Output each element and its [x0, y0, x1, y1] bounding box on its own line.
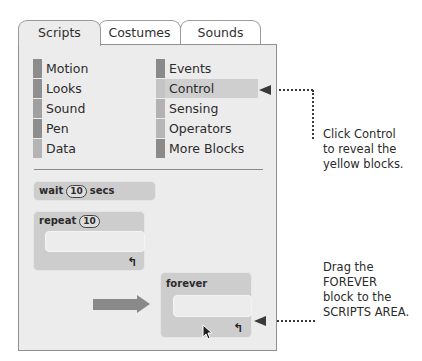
forever-mouth — [173, 295, 252, 317]
category-color-swatch — [156, 139, 165, 158]
category-data[interactable]: Data — [33, 139, 133, 158]
category-pen[interactable]: Pen — [33, 119, 133, 138]
tab-costumes[interactable]: Costumes — [98, 20, 181, 45]
category-color-swatch — [33, 119, 42, 138]
drag-direction-arrowhead — [137, 295, 150, 313]
pointer-arrowhead-icon — [259, 85, 271, 95]
category-color-swatch — [33, 59, 42, 78]
category-sound[interactable]: Sound — [33, 99, 133, 118]
dotted-leader-line — [312, 90, 314, 139]
block-text: wait — [39, 185, 63, 196]
category-more-blocks[interactable]: More Blocks — [156, 139, 258, 158]
repeat-block[interactable]: repeat10 ↰ — [33, 211, 145, 271]
loop-arrow-icon: ↰ — [127, 256, 141, 268]
category-color-swatch — [156, 59, 165, 78]
category-color-swatch — [33, 79, 42, 98]
category-label: Motion — [46, 59, 88, 78]
block-text: forever — [166, 278, 207, 289]
category-label: Events — [169, 59, 211, 78]
category-label: Data — [46, 139, 76, 158]
mouse-cursor-icon — [202, 324, 214, 340]
category-looks[interactable]: Looks — [33, 79, 133, 98]
category-color-swatch — [156, 99, 165, 118]
tab-scripts[interactable]: Scripts — [18, 20, 101, 46]
block-text: secs — [90, 185, 115, 196]
category-label: Looks — [46, 79, 82, 98]
wait-secs-block[interactable]: wait10secs — [33, 181, 156, 201]
category-label: Pen — [46, 119, 69, 138]
category-color-swatch — [156, 119, 165, 138]
category-label: Sound — [46, 99, 85, 118]
category-label: More Blocks — [169, 139, 244, 158]
pointer-arrowhead-icon — [254, 316, 266, 326]
category-sensing[interactable]: Sensing — [156, 99, 258, 118]
repeat-mouth — [45, 231, 145, 252]
category-label: Operators — [169, 119, 231, 138]
palette-divider — [34, 169, 263, 170]
tab-sounds[interactable]: Sounds — [180, 20, 261, 45]
drag-instruction-note: Drag the FOREVER block to the SCRIPTS AR… — [323, 260, 409, 320]
repeat-count-input[interactable]: 10 — [79, 215, 100, 228]
control-instruction-note: Click Control to reveal the yellow block… — [323, 127, 404, 172]
wait-duration-input[interactable]: 10 — [66, 185, 87, 198]
category-color-swatch — [33, 99, 42, 118]
category-label: Control — [169, 79, 214, 98]
category-color-swatch — [156, 79, 165, 98]
category-control[interactable]: Control — [156, 79, 258, 98]
loop-arrow-icon: ↰ — [233, 322, 247, 334]
category-motion[interactable]: Motion — [33, 59, 133, 78]
dotted-leader-line — [271, 89, 313, 91]
category-color-swatch — [33, 139, 42, 158]
drag-direction-arrow — [93, 299, 137, 310]
block-text: repeat — [39, 215, 76, 226]
category-label: Sensing — [169, 99, 218, 118]
category-operators[interactable]: Operators — [156, 119, 258, 138]
category-events[interactable]: Events — [156, 59, 258, 78]
